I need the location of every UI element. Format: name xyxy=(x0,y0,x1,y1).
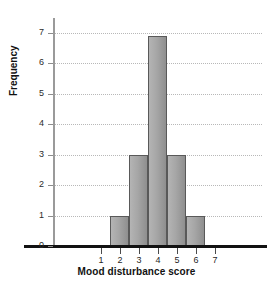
y-tick-label-2: 2 xyxy=(30,180,44,189)
x-tick-label-4: 4 xyxy=(151,255,165,265)
x-tick-mark-3 xyxy=(139,248,140,254)
x-tick-mark-2 xyxy=(120,248,121,254)
bar-score-3 xyxy=(129,155,148,246)
x-tick-label-7: 7 xyxy=(208,255,222,265)
y-tick-mark-0 xyxy=(48,246,53,247)
y-tick-mark-2 xyxy=(48,185,53,186)
y-tick-label-3: 3 xyxy=(30,150,44,159)
bar-score-5 xyxy=(167,155,186,246)
y-tick-label-7: 7 xyxy=(30,28,44,37)
gridline-7 xyxy=(53,33,262,34)
x-tick-label-3: 3 xyxy=(132,255,146,265)
x-axis-line xyxy=(24,245,267,248)
histogram-figure: 7 6 5 4 3 2 1 0 1 2 3 4 5 6 7 Frequency … xyxy=(0,0,273,282)
y-tick-label-6: 6 xyxy=(30,58,44,67)
bar-score-2 xyxy=(110,216,129,246)
x-tick-label-6: 6 xyxy=(189,255,203,265)
x-tick-mark-6 xyxy=(196,248,197,254)
y-axis-title: Frequency xyxy=(8,45,19,96)
y-tick-mark-5 xyxy=(48,94,53,95)
x-tick-mark-1 xyxy=(101,248,102,254)
bar-score-4 xyxy=(148,36,167,246)
x-tick-mark-7 xyxy=(215,248,216,254)
y-axis-line xyxy=(53,18,55,246)
y-tick-label-5: 5 xyxy=(30,89,44,98)
y-tick-mark-3 xyxy=(48,155,53,156)
y-tick-label-1: 1 xyxy=(30,211,44,220)
x-tick-label-2: 2 xyxy=(113,255,127,265)
y-tick-label-0: 0 xyxy=(30,241,44,250)
y-tick-label-4: 4 xyxy=(30,119,44,128)
y-tick-mark-6 xyxy=(48,63,53,64)
x-tick-label-1: 1 xyxy=(94,255,108,265)
x-tick-label-5: 5 xyxy=(170,255,184,265)
y-tick-mark-4 xyxy=(48,124,53,125)
bar-score-6 xyxy=(186,216,205,246)
y-tick-mark-7 xyxy=(48,33,53,34)
x-tick-mark-5 xyxy=(177,248,178,254)
x-tick-mark-4 xyxy=(158,248,159,254)
plot-area: 7 6 5 4 3 2 1 0 1 2 3 4 5 6 7 xyxy=(0,0,273,282)
y-tick-mark-1 xyxy=(48,216,53,217)
x-axis-title: Mood disturbance score xyxy=(0,266,273,277)
